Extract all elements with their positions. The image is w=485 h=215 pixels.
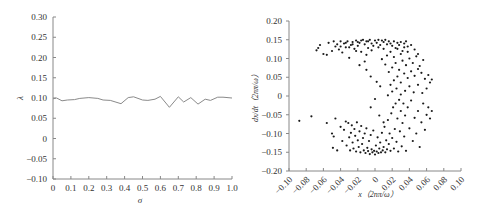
scatter-point bbox=[410, 44, 412, 46]
scatter-point bbox=[393, 79, 395, 81]
scatter-point bbox=[379, 141, 381, 143]
scatter-point bbox=[381, 58, 383, 60]
left-y-tick-label: 0.30 bbox=[31, 12, 47, 22]
scatter-point bbox=[328, 42, 330, 44]
right-x-tick-label: −0.04 bbox=[324, 174, 346, 196]
scatter-point bbox=[389, 42, 391, 44]
right-y-tick-label: −0.15 bbox=[261, 147, 282, 157]
scatter-point bbox=[422, 102, 424, 104]
scatter-point bbox=[374, 39, 376, 41]
scatter-point bbox=[348, 57, 350, 59]
scatter-point bbox=[341, 140, 343, 142]
scatter-point bbox=[365, 69, 367, 71]
scatter-point bbox=[413, 91, 415, 93]
scatter-point bbox=[400, 93, 402, 95]
scatter-point bbox=[383, 41, 385, 43]
scatter-point bbox=[367, 150, 369, 152]
scatter-point bbox=[422, 59, 424, 61]
scatter-point bbox=[396, 42, 398, 44]
scatter-point bbox=[385, 139, 387, 141]
scatter-point bbox=[364, 43, 366, 45]
scatter-point bbox=[417, 68, 419, 70]
scatter-point bbox=[377, 136, 379, 138]
scatter-point bbox=[376, 42, 378, 44]
scatter-point bbox=[383, 48, 385, 50]
scatter-point bbox=[377, 46, 379, 48]
scatter-point bbox=[355, 50, 357, 52]
left-x-tick-label: 0.1 bbox=[65, 183, 76, 193]
scatter-point bbox=[427, 74, 429, 76]
scatter-point bbox=[396, 117, 398, 119]
scatter-point bbox=[350, 132, 352, 134]
scatter-point bbox=[395, 102, 397, 104]
scatter-point bbox=[404, 114, 406, 116]
scatter-point bbox=[426, 114, 428, 116]
scatter-point bbox=[403, 135, 405, 137]
left-x-tick-label: 0.3 bbox=[101, 183, 113, 193]
scatter-point bbox=[395, 87, 397, 89]
left-y-tick-label: 0.10 bbox=[31, 93, 47, 103]
scatter-point bbox=[317, 47, 319, 49]
scatter-point bbox=[353, 48, 355, 50]
scatter-point bbox=[340, 40, 342, 42]
right-x-tick-label: −0.10 bbox=[273, 174, 295, 196]
right-x-tick-label: 0 bbox=[370, 174, 381, 185]
scatter-point bbox=[332, 147, 334, 149]
scatter-point bbox=[396, 75, 398, 77]
scatter-point bbox=[417, 84, 419, 86]
scatter-point bbox=[351, 124, 353, 126]
left-y-tick-label: 0.15 bbox=[31, 73, 47, 83]
lambda-vs-sigma-chart: 0.300.250.200.150.100.050−0.05−0.10 00.1… bbox=[15, 12, 238, 205]
scatter-point bbox=[370, 134, 372, 136]
scatter-point bbox=[431, 78, 433, 80]
right-x-tick-label: −0.08 bbox=[290, 174, 312, 196]
scatter-point bbox=[414, 48, 416, 50]
left-y-tick-label: 0.05 bbox=[31, 113, 47, 123]
scatter-point bbox=[380, 151, 382, 153]
left-x-tick-label: 0.5 bbox=[137, 183, 149, 193]
scatter-point bbox=[387, 94, 389, 96]
scatter-point bbox=[420, 121, 422, 123]
scatter-point bbox=[390, 112, 392, 114]
scatter-point bbox=[383, 126, 385, 128]
scatter-point bbox=[403, 72, 405, 74]
scatter-point bbox=[427, 106, 429, 108]
scatter-point bbox=[407, 106, 409, 108]
scatter-point bbox=[400, 53, 402, 55]
scatter-point bbox=[405, 64, 407, 66]
scatter-point bbox=[399, 130, 401, 132]
scatter-point bbox=[393, 40, 395, 42]
scatter-point bbox=[331, 132, 333, 134]
scatter-point bbox=[405, 40, 407, 42]
scatter-point bbox=[410, 99, 412, 101]
scatter-point bbox=[349, 149, 351, 151]
scatter-point bbox=[394, 128, 396, 130]
scatter-point bbox=[429, 117, 431, 119]
scatter-point bbox=[361, 143, 363, 145]
right-y-tick-label: 0.15 bbox=[266, 35, 282, 45]
scatter-point bbox=[370, 106, 372, 108]
scatter-point bbox=[360, 39, 362, 41]
left-x-axis-label: σ bbox=[138, 195, 143, 205]
scatter-point bbox=[331, 50, 333, 52]
scatter-point bbox=[375, 144, 377, 146]
scatter-point bbox=[400, 41, 402, 43]
scatter-point bbox=[403, 42, 405, 44]
scatter-point bbox=[388, 143, 390, 145]
left-y-axis-label: λ bbox=[15, 96, 25, 101]
scatter-point bbox=[420, 72, 422, 74]
scatter-point bbox=[415, 132, 417, 134]
left-y-tick-label: 0.25 bbox=[31, 32, 47, 42]
scatter-point bbox=[298, 120, 300, 122]
scatter-point bbox=[357, 45, 359, 47]
scatter-point bbox=[412, 62, 414, 64]
scatter-point bbox=[382, 149, 384, 151]
scatter-point bbox=[322, 53, 324, 55]
right-y-tick-label: 0 bbox=[278, 91, 283, 101]
scatter-point bbox=[352, 147, 354, 149]
scatter-point bbox=[377, 152, 379, 154]
scatter-point bbox=[352, 141, 354, 143]
scatter-point bbox=[389, 132, 391, 134]
scatter-point bbox=[333, 40, 335, 42]
scatter-point bbox=[407, 45, 409, 47]
